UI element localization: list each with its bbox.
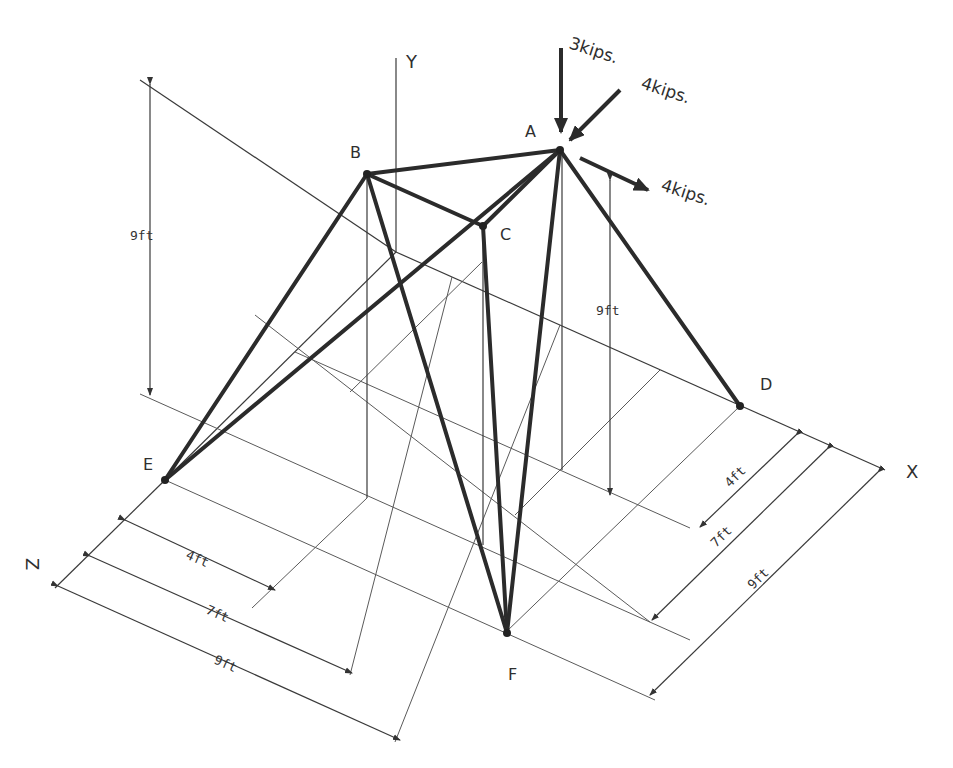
truss-diagram: 9ft 9ft 4ft 7ft 9ft 4ft 7ft 9ft	[0, 0, 953, 768]
label-e: E	[143, 455, 153, 474]
label-c: C	[500, 225, 511, 244]
node-f	[503, 629, 511, 637]
dim-right-9ft-z	[650, 472, 878, 695]
label-y-axis: Y	[405, 51, 418, 72]
dim-right-9ft-label: 9ft	[596, 303, 619, 318]
truss-svg: 9ft 9ft 4ft 7ft 9ft 4ft 7ft 9ft	[0, 0, 953, 768]
nodes	[161, 146, 744, 637]
load-3kips-label: 3kips.	[567, 33, 621, 68]
dim-left-9ft-label: 9ft	[130, 228, 153, 243]
labels: A B C D E F Y X Z	[22, 51, 918, 684]
label-x-axis: X	[906, 461, 918, 482]
upper-reference-line	[140, 80, 396, 252]
dim-bottom-9ft-label: 9ft	[212, 652, 240, 675]
member-bf	[367, 174, 507, 633]
load-4kips-x-arrow	[580, 158, 648, 190]
load-4kips-z-label: 4kips.	[639, 73, 693, 108]
member-bc	[367, 174, 483, 226]
member-be	[165, 174, 367, 480]
node-e	[161, 476, 169, 484]
x-axis	[396, 252, 885, 470]
ground-grid	[140, 150, 740, 742]
label-b: B	[350, 143, 361, 162]
label-f: F	[508, 665, 517, 684]
dim-right-9ft-z-label: 9ft	[745, 565, 772, 592]
label-a: A	[525, 122, 536, 141]
member-ae	[165, 150, 560, 480]
node-d	[736, 402, 744, 410]
label-d: D	[760, 375, 772, 394]
node-b	[363, 170, 371, 178]
dim-bottom-7ft-label: 7ft	[204, 602, 232, 625]
member-af	[507, 150, 560, 633]
node-a	[556, 146, 564, 154]
load-4kips-x-label: 4kips.	[659, 175, 713, 210]
truss-members	[165, 150, 740, 633]
dim-right-4ft	[700, 435, 796, 527]
dim-right-7ft-label: 7ft	[708, 523, 735, 550]
dim-bottom-4ft-label: 4ft	[184, 547, 212, 570]
label-z-axis: Z	[22, 558, 43, 570]
z-axis-lower	[55, 480, 165, 588]
node-c	[479, 222, 487, 230]
load-4kips-z-arrow	[570, 90, 620, 140]
member-ad	[560, 150, 740, 406]
z-axis-upper	[165, 252, 396, 480]
dim-right-4ft-label: 4ft	[722, 463, 749, 490]
